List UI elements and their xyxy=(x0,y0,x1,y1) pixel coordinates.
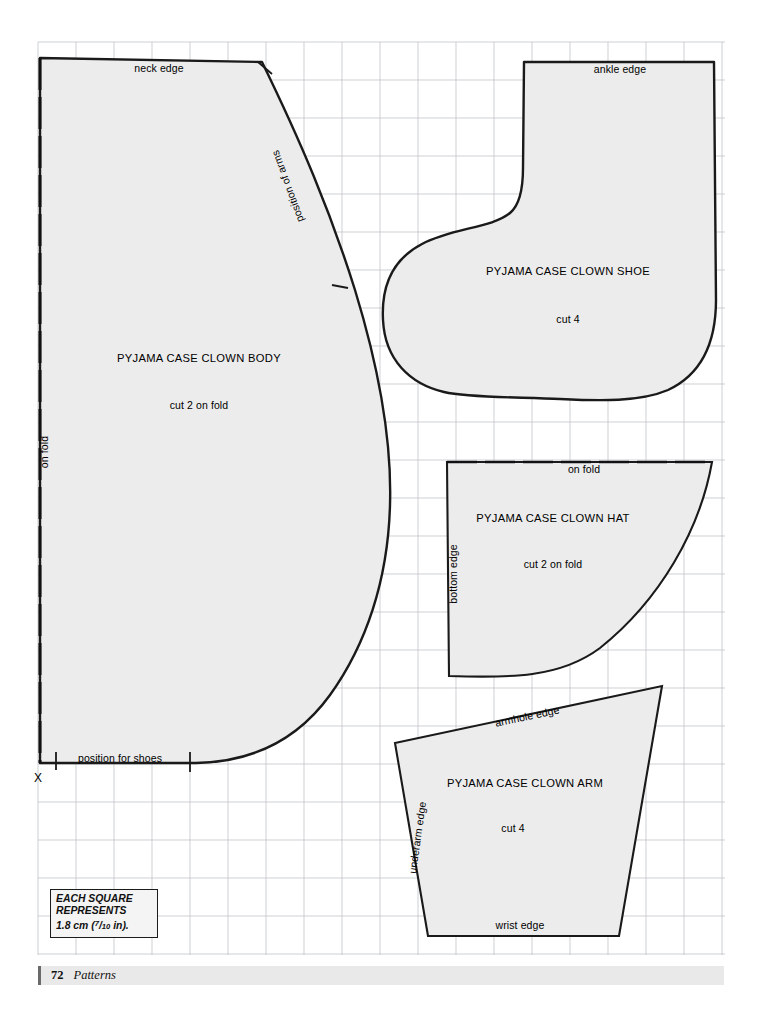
body-label-neck-edge: neck edge xyxy=(134,62,183,74)
hat-cut-note: cut 2 on fold xyxy=(524,558,583,570)
arm-outline xyxy=(395,686,662,936)
scale-legend: EACH SQUARE REPRESENTS 1.8 cm (7/10 in). xyxy=(50,889,158,938)
pattern-sheet-page: neck edge position of arms on fold posit… xyxy=(0,0,757,1030)
legend-fraction: 7/10 xyxy=(95,920,111,931)
arm-title: PYJAMA CASE CLOWN ARM xyxy=(447,777,603,789)
legend-value-prefix: 1.8 cm ( xyxy=(56,920,95,931)
body-label-position-for-shoes: position for shoes xyxy=(78,752,162,764)
arm-cut-note: cut 4 xyxy=(501,822,524,834)
piece-shoe[interactable]: ankle edge PYJAMA CASE CLOWN SHOE cut 4 xyxy=(383,62,716,400)
legend-value-suffix: in). xyxy=(110,920,128,931)
page-footer: 72 Patterns xyxy=(38,966,724,985)
body-marker-x: X xyxy=(34,771,42,785)
hat-title: PYJAMA CASE CLOWN HAT xyxy=(476,512,629,524)
piece-hat[interactable]: on fold bottom edge PYJAMA CASE CLOWN HA… xyxy=(447,462,712,677)
shoe-label-ankle-edge: ankle edge xyxy=(594,63,646,75)
shoe-outline xyxy=(383,62,716,400)
body-title: PYJAMA CASE CLOWN BODY xyxy=(117,352,281,364)
hat-label-bottom-edge: bottom edge xyxy=(447,544,459,604)
footer-section-name: Patterns xyxy=(74,968,116,983)
piece-arm[interactable]: armhole edge underarm edge wrist edge PY… xyxy=(395,686,662,936)
legend-line-2: REPRESENTS xyxy=(56,905,152,917)
pattern-sheet-svg: neck edge position of arms on fold posit… xyxy=(0,0,757,1030)
arm-label-wrist-edge: wrist edge xyxy=(495,919,545,931)
legend-fraction-numerator: 7 xyxy=(95,919,99,928)
body-label-on-fold: on fold xyxy=(38,436,50,468)
body-cut-note: cut 2 on fold xyxy=(170,399,229,411)
shoe-title: PYJAMA CASE CLOWN SHOE xyxy=(486,265,650,277)
legend-fraction-denominator: 10 xyxy=(102,922,110,931)
legend-line-3: 1.8 cm (7/10 in). xyxy=(56,918,152,934)
piece-body[interactable]: neck edge position of arms on fold posit… xyxy=(34,58,390,785)
footer-page-number: 72 xyxy=(51,968,64,983)
hat-label-on-fold: on fold xyxy=(568,463,600,475)
legend-line-1: EACH SQUARE xyxy=(56,893,152,905)
shoe-cut-note: cut 4 xyxy=(556,313,579,325)
